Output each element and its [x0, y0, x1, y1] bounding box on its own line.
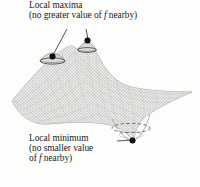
local-maximum-right-dot	[85, 38, 90, 43]
local-maximum-left-dot	[50, 54, 55, 59]
annotation-local-minimum: Local minimum (no smaller value of f nea…	[29, 134, 93, 163]
local-maximum-right-cap	[78, 42, 97, 52]
annotation-local-minimum-line3-pre: of	[29, 153, 39, 163]
annotation-local-maxima: Local maxima (no greater value of f near…	[29, 1, 137, 21]
annotation-local-maxima-line2-post: nearby)	[107, 10, 138, 20]
surface-sheet	[12, 41, 192, 141]
annotation-local-maxima-line2: (no greater value of f nearby)	[29, 11, 137, 21]
leader-to-min	[117, 140, 131, 141]
annotation-local-maxima-line2-pre: (no greater value of	[29, 10, 104, 20]
local-minimum-dot	[130, 138, 135, 143]
annotation-local-minimum-line3: of f nearby)	[29, 154, 93, 164]
figure-local-extrema: Local maxima (no greater value of f near…	[0, 0, 200, 187]
annotation-local-minimum-line3-post: nearby)	[42, 153, 73, 163]
